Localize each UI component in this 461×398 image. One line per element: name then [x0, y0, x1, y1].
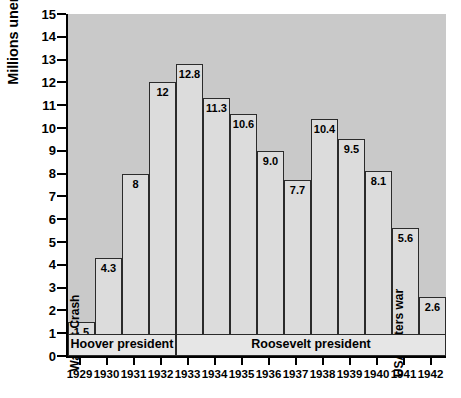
bar-value-label: 9.0: [258, 155, 283, 167]
x-tick-label: 1942: [411, 368, 451, 381]
president-band: Hoover president: [68, 334, 176, 356]
y-tick-label: 5: [26, 236, 56, 249]
x-tick-mark: [106, 358, 108, 365]
y-tick-mark: [57, 241, 66, 243]
bar-value-label: 2.6: [420, 301, 445, 313]
bars-layer: 1.5Wall St Crash4.381212.811.310.69.07.7…: [68, 14, 446, 356]
y-tick-mark: [57, 264, 66, 266]
y-tick-label: 4: [26, 258, 56, 271]
y-axis: 1514131211109876543210: [28, 14, 66, 356]
y-tick-mark: [57, 173, 66, 175]
bar-value-label: 8: [123, 178, 148, 190]
bar-annotation: Wall St Crash: [68, 295, 82, 372]
bar: 12.8: [176, 64, 203, 356]
bar-value-label: 12.8: [177, 68, 202, 80]
y-tick-label: 14: [26, 30, 56, 43]
bar-value-label: 12: [150, 86, 175, 98]
x-tick-mark: [268, 358, 270, 365]
bar: 10.4: [311, 119, 338, 356]
bar-annotation: USA enters war: [392, 289, 406, 377]
x-tick-mark: [160, 358, 162, 365]
y-tick-mark: [57, 127, 66, 129]
bar-value-label: 11.3: [204, 102, 229, 114]
y-tick-mark: [57, 355, 66, 357]
y-tick-label: 10: [26, 122, 56, 135]
bar: 7.7: [284, 180, 311, 356]
bar-value-label: 10.4: [312, 123, 337, 135]
y-tick-label: 11: [26, 99, 56, 112]
bar-value-label: 4.3: [96, 262, 121, 274]
y-tick-label: 6: [26, 213, 56, 226]
y-tick-label: 3: [26, 281, 56, 294]
x-tick-mark: [241, 358, 243, 365]
bar: 8: [122, 174, 149, 356]
bar: 10.6: [230, 114, 257, 356]
y-tick-mark: [57, 104, 66, 106]
x-axis: 1929193019311932193319341935193619371938…: [66, 358, 446, 398]
bar: 9.5: [338, 139, 365, 356]
y-tick-label: 8: [26, 167, 56, 180]
bar-value-label: 7.7: [285, 184, 310, 196]
plot-area: 1.5Wall St Crash4.381212.811.310.69.07.7…: [66, 14, 446, 358]
y-tick-mark: [57, 218, 66, 220]
y-tick-mark: [57, 287, 66, 289]
y-tick-mark: [57, 59, 66, 61]
y-tick-label: 9: [26, 144, 56, 157]
y-tick-label: 13: [26, 53, 56, 66]
y-tick-label: 12: [26, 76, 56, 89]
bar-value-label: 5.6: [393, 232, 418, 244]
y-tick-mark: [57, 332, 66, 334]
y-tick-label: 7: [26, 190, 56, 203]
x-tick-mark: [430, 358, 432, 365]
bar: 11.3: [203, 98, 230, 356]
president-band: Roosevelt president: [176, 334, 446, 356]
y-tick-mark: [57, 150, 66, 152]
x-tick-mark: [376, 358, 378, 365]
x-tick-mark: [322, 358, 324, 365]
x-tick-mark: [133, 358, 135, 365]
bar: 8.1: [365, 171, 392, 356]
y-tick-mark: [57, 81, 66, 83]
bar: 9.0: [257, 151, 284, 356]
bar: 12: [149, 82, 176, 356]
y-tick-label: 2: [26, 304, 56, 317]
y-tick-mark: [57, 13, 66, 15]
bar-value-label: 9.5: [339, 143, 364, 155]
x-tick-mark: [295, 358, 297, 365]
y-tick-label: 1: [26, 327, 56, 340]
y-tick-mark: [57, 195, 66, 197]
y-tick-mark: [57, 309, 66, 311]
y-axis-title: Millions unemployed: [2, 0, 24, 134]
x-tick-mark: [187, 358, 189, 365]
bar-value-label: 10.6: [231, 118, 256, 130]
y-tick-label: 0: [26, 350, 56, 363]
bar-value-label: 8.1: [366, 175, 391, 187]
unemployment-bar-chart: Millions unemployed 15141312111098765432…: [0, 0, 461, 398]
x-tick-mark: [214, 358, 216, 365]
y-tick-mark: [57, 36, 66, 38]
x-tick-mark: [349, 358, 351, 365]
y-tick-label: 15: [26, 8, 56, 21]
